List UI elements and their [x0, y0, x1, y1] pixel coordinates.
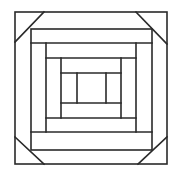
outer-square: [15, 12, 167, 164]
quilt-block-diagram: [0, 0, 178, 179]
corner-diagonal-top-left: [15, 12, 44, 42]
